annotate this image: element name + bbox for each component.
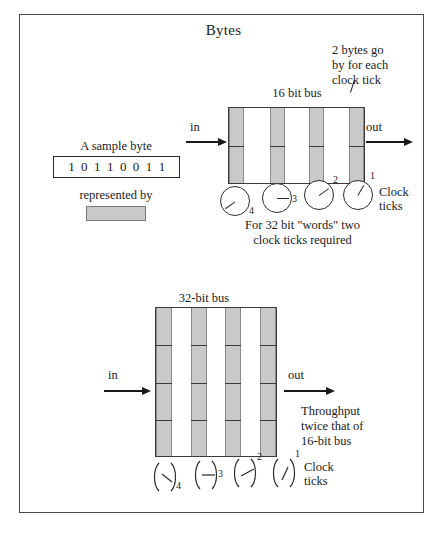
bus32-clock-ticks-label: Clock ticks — [304, 460, 334, 489]
bus16-box — [228, 107, 365, 184]
bus16-clock-2 — [304, 180, 334, 210]
bus16-callout: 2 bytes go by for each clock tick — [332, 43, 442, 88]
bus32-in-label: in — [108, 368, 118, 383]
bus32-throughput-note: Throughput twice that of 16-bit bus — [301, 404, 421, 449]
bus32-box — [155, 307, 277, 457]
bus16-clock-1 — [343, 180, 373, 210]
bus16-clock-4-number: 4 — [249, 205, 254, 217]
bus32-clock-1-number: 1 — [295, 448, 300, 460]
bus16-bar-4 — [349, 108, 364, 183]
bus16-clock-2-number: 2 — [333, 174, 338, 186]
bus16-out-label: out — [366, 120, 382, 135]
bus16-label: 16 bit bus — [232, 86, 362, 101]
bus32-clock-1 — [267, 456, 301, 490]
bus16-bar-1 — [229, 108, 244, 183]
bus32-clock-4-number: 4 — [176, 480, 181, 492]
bus32-clock-2-number: 2 — [257, 451, 262, 463]
bus32-out-arrow — [284, 390, 336, 398]
sample-byte-bits: 1 0 1 1 0 0 1 1 — [54, 159, 181, 174]
bus32-bar-1 — [156, 308, 172, 456]
bus16-bar-2 — [270, 108, 285, 183]
bus32-bar-4 — [260, 308, 276, 456]
diagram-page: Bytes A sample byte 1 0 1 1 0 0 1 1 repr… — [0, 0, 447, 534]
bus16-bar-3 — [309, 108, 324, 183]
bus16-caption: For 32 bit "words" two clock ticks requi… — [215, 218, 390, 248]
bus16-out-arrow — [366, 141, 414, 149]
page-title: Bytes — [0, 22, 447, 40]
sample-byte-label: A sample byte — [46, 139, 186, 154]
bus32-clock-3-number: 3 — [218, 468, 223, 480]
bus16-in-arrow — [186, 141, 228, 149]
sample-byte-box: 1 0 1 1 0 0 1 1 — [53, 156, 180, 178]
bus16-in-label: in — [190, 120, 200, 135]
bus32-label: 32-bit bus — [139, 291, 269, 306]
represented-by-label: represented by — [46, 188, 186, 203]
bus16-clock-4 — [220, 186, 250, 216]
bus16-clock-3-number: 3 — [292, 193, 297, 205]
bus16-clock-1-number: 1 — [370, 170, 375, 182]
bus32-bar-3 — [225, 308, 241, 456]
bus16-clock-ticks-label: Clock ticks — [379, 185, 409, 214]
bus32-out-label: out — [288, 368, 304, 383]
bus32-bar-2 — [191, 308, 207, 456]
bus16-clock-3 — [262, 183, 292, 213]
byte-swatch — [86, 206, 146, 221]
bus32-in-arrow — [104, 390, 152, 398]
